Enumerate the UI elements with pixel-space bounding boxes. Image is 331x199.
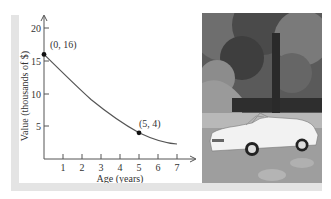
svg-text:2: 2 — [80, 162, 85, 173]
svg-text:15: 15 — [31, 56, 41, 67]
svg-text:3: 3 — [99, 162, 104, 173]
svg-text:7: 7 — [175, 162, 180, 173]
car-photo — [202, 13, 322, 183]
svg-text:1: 1 — [61, 162, 66, 173]
svg-text:10: 10 — [31, 89, 41, 100]
svg-text:6: 6 — [156, 162, 161, 173]
depreciation-chart: 5 10 15 20 1 2 3 4 5 6 7 Age (years) Val… — [19, 13, 202, 183]
chart-panel: 5 10 15 20 1 2 3 4 5 6 7 Age (years) Val… — [19, 13, 202, 183]
point-5-4 — [137, 130, 142, 135]
svg-text:20: 20 — [31, 23, 41, 34]
convertible-car-image — [202, 13, 322, 183]
svg-text:5: 5 — [36, 121, 41, 132]
y-axis-label: Value (thousands of $) — [19, 51, 31, 141]
point-0-16 — [42, 52, 47, 57]
x-tick-labels: 1 2 3 4 5 6 7 — [61, 162, 180, 173]
svg-text:4: 4 — [118, 162, 123, 173]
value-curve — [44, 54, 177, 144]
x-axis-label: Age (years) — [97, 173, 144, 183]
x-ticks — [63, 154, 177, 159]
annotation-0-16: (0, 16) — [50, 39, 77, 51]
annotation-5-4: (5, 4) — [139, 118, 161, 130]
y-tick-labels: 5 10 15 20 — [31, 23, 41, 132]
figure-frame-bottom — [11, 183, 322, 191]
y-ticks — [44, 28, 49, 126]
svg-text:5: 5 — [137, 162, 142, 173]
figure-frame-left — [11, 15, 19, 191]
